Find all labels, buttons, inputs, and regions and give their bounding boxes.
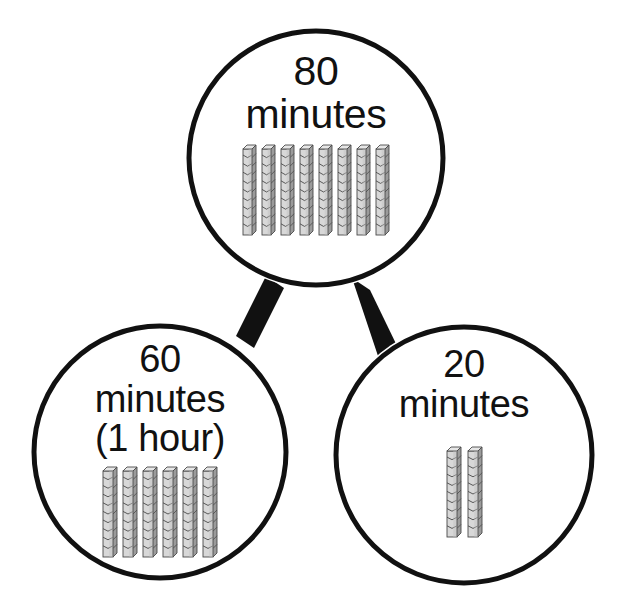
rods-part-left — [102, 466, 218, 558]
rods-whole — [242, 144, 390, 236]
bubble-part-left[interactable]: 60 minutes (1 hour) — [30, 322, 290, 582]
base-ten-rod — [356, 144, 371, 236]
bubble-part-right[interactable]: 20 minutes — [332, 323, 596, 587]
base-ten-rod — [202, 466, 218, 558]
bubble-part-left-label: 60 minutes (1 hour) — [95, 340, 225, 459]
base-ten-rod — [467, 446, 483, 538]
base-ten-rod — [122, 466, 138, 558]
base-ten-rod — [318, 144, 333, 236]
base-ten-rod — [299, 144, 314, 236]
base-ten-rod — [102, 466, 118, 558]
number-bond-diagram: 80 minutes 60 minutes (1 hour) 20 minute… — [0, 0, 633, 612]
base-ten-rod — [242, 144, 257, 236]
base-ten-rod — [280, 144, 295, 236]
base-ten-rod — [375, 144, 390, 236]
bubble-part-right-label: 20 minutes — [399, 345, 529, 424]
rods-part-right — [446, 446, 483, 538]
base-ten-rod — [446, 446, 462, 538]
base-ten-rod — [182, 466, 198, 558]
bubble-whole-label: 80 minutes — [246, 50, 387, 135]
bubble-whole[interactable]: 80 minutes — [185, 27, 447, 289]
base-ten-rod — [162, 466, 178, 558]
base-ten-rod — [337, 144, 352, 236]
base-ten-rod — [142, 466, 158, 558]
base-ten-rod — [261, 144, 276, 236]
